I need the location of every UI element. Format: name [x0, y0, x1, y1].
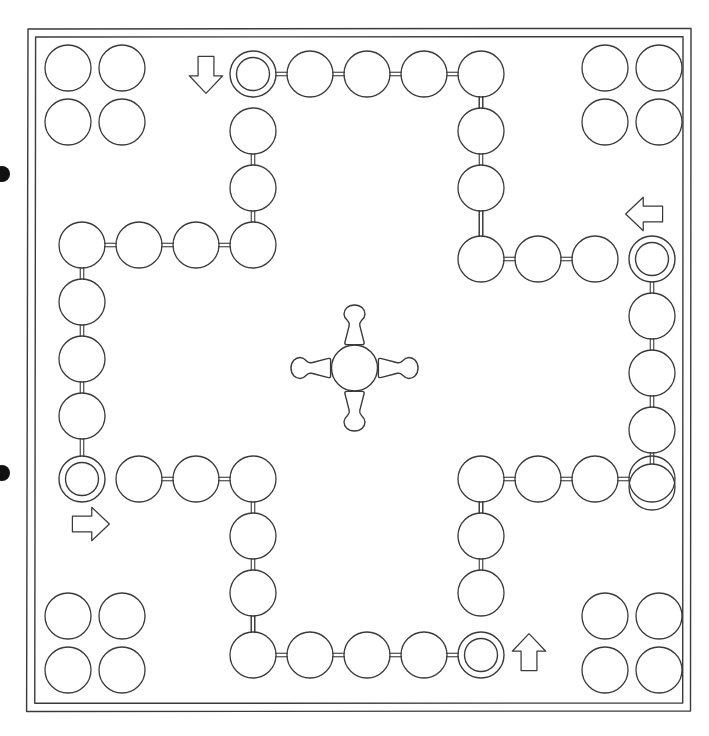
track-space[interactable] — [173, 222, 219, 268]
home-top-left-space[interactable] — [99, 99, 145, 145]
direction-arrows — [72, 56, 662, 670]
arrow-right-icon — [72, 507, 109, 540]
start-left[interactable] — [59, 456, 105, 502]
track-space[interactable] — [458, 456, 504, 502]
start-left-inner-ring[interactable] — [66, 463, 99, 496]
home-bottom-left-space[interactable] — [45, 593, 91, 639]
track-space[interactable] — [230, 513, 276, 559]
start-top[interactable] — [230, 51, 276, 97]
track-space[interactable] — [287, 632, 333, 678]
track-spaces[interactable] — [59, 51, 675, 678]
pawn-left — [291, 358, 331, 379]
track-space[interactable] — [173, 456, 219, 502]
home-top-left-space[interactable] — [45, 99, 91, 145]
start-spaces[interactable] — [59, 51, 675, 678]
arrow-down-icon — [189, 56, 222, 93]
center-home-circle — [332, 345, 378, 391]
home-top-right-space[interactable] — [582, 99, 628, 145]
track-space[interactable] — [287, 51, 333, 97]
home-bottom-left-space[interactable] — [99, 593, 145, 639]
home-bottom-right[interactable] — [582, 593, 682, 693]
start-right[interactable] — [629, 236, 675, 282]
home-top-right-space[interactable] — [636, 99, 682, 145]
track-space[interactable] — [629, 350, 675, 396]
track-space[interactable] — [344, 51, 390, 97]
track-space[interactable] — [230, 632, 276, 678]
track-space[interactable] — [230, 222, 276, 268]
pawn-top — [344, 305, 365, 345]
track-space[interactable] — [59, 222, 105, 268]
home-bottom-right-space[interactable] — [636, 647, 682, 693]
start-right-inner-ring[interactable] — [636, 243, 669, 276]
home-top-left[interactable] — [45, 45, 145, 145]
track-space[interactable] — [401, 632, 447, 678]
board-diagram — [0, 0, 709, 736]
home-yards[interactable] — [45, 45, 682, 693]
home-top-right-space[interactable] — [636, 45, 682, 91]
start-bottom[interactable] — [458, 632, 504, 678]
track-space[interactable] — [344, 632, 390, 678]
home-top-left-space[interactable] — [45, 45, 91, 91]
home-bottom-left[interactable] — [45, 593, 145, 693]
track-space[interactable] — [230, 165, 276, 211]
home-bottom-right-space[interactable] — [582, 593, 628, 639]
track-space[interactable] — [458, 236, 504, 282]
home-bottom-left-space[interactable] — [99, 647, 145, 693]
track-space[interactable] — [629, 456, 675, 502]
track-space[interactable] — [458, 165, 504, 211]
track-space[interactable] — [458, 108, 504, 154]
home-bottom-left-space[interactable] — [45, 647, 91, 693]
track-space[interactable] — [59, 336, 105, 382]
track-space[interactable] — [458, 51, 504, 97]
start-top-inner-ring[interactable] — [237, 58, 270, 91]
track-space[interactable] — [458, 570, 504, 616]
start-bottom-inner-ring[interactable] — [465, 639, 498, 672]
track-space[interactable] — [230, 108, 276, 154]
track-space[interactable] — [572, 456, 618, 502]
track-space[interactable] — [116, 456, 162, 502]
track-space[interactable] — [116, 222, 162, 268]
track-space[interactable] — [401, 51, 447, 97]
track-space[interactable] — [59, 393, 105, 439]
track-space[interactable] — [515, 236, 561, 282]
arrow-left-icon — [626, 197, 663, 230]
pawn-bottom — [344, 391, 365, 431]
track-space[interactable] — [629, 407, 675, 453]
track-space[interactable] — [458, 513, 504, 559]
arrow-up-icon — [512, 634, 545, 671]
home-top-right[interactable] — [582, 45, 682, 145]
home-top-right-space[interactable] — [582, 45, 628, 91]
track-space[interactable] — [59, 279, 105, 325]
home-bottom-right-space[interactable] — [582, 647, 628, 693]
track-space[interactable] — [230, 570, 276, 616]
track-space[interactable] — [572, 236, 618, 282]
track-space[interactable] — [629, 293, 675, 339]
center-home — [291, 305, 418, 431]
track-space[interactable] — [515, 456, 561, 502]
home-bottom-right-space[interactable] — [636, 593, 682, 639]
board-frame-outer — [27, 28, 691, 711]
pawn-right — [378, 358, 418, 379]
track-connectors — [80, 72, 654, 657]
track-space[interactable] — [629, 464, 675, 510]
track-space[interactable] — [230, 456, 276, 502]
board-frame — [27, 28, 691, 711]
home-top-left-space[interactable] — [99, 45, 145, 91]
